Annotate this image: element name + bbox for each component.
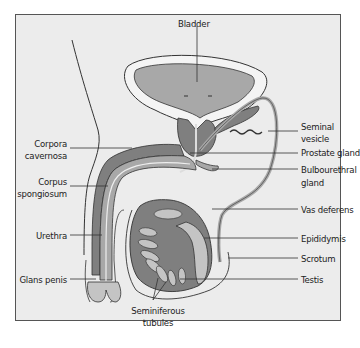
label-urethra: Urethra [36,230,67,241]
label-seminiferous-line2: tubules [128,317,188,328]
label-bulbourethral-line2: gland [301,177,324,188]
label-corpora-cavernosa-line1: Corpora [34,138,67,149]
label-glans-penis: Glans penis [19,274,67,285]
label-bulbourethral-line1: Bulbourethral [301,164,357,175]
label-corpus-spongiosum-line2: spongiosum [17,188,67,199]
label-scrotum: Scrotum [301,253,335,264]
glans-penis [87,282,120,302]
label-epididymis: Epididymis [301,233,346,244]
label-bladder: Bladder [178,18,210,29]
label-vas-deferens: Vas deferens [301,204,354,215]
label-seminal-vesicle-line2: vesicle [301,133,329,144]
label-testis: Testis [301,274,323,285]
label-corpora-cavernosa-line2: cavernosa [25,150,67,161]
label-corpus-spongiosum-line1: Corpus [38,176,67,187]
label-seminiferous-line1: Seminiferous [128,305,188,316]
label-prostate-gland: Prostate gland [301,147,360,158]
label-seminal-vesicle-line1: Seminal [301,121,334,132]
